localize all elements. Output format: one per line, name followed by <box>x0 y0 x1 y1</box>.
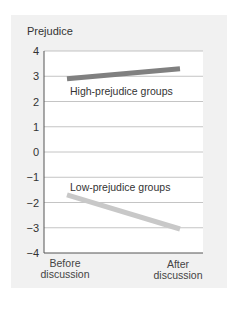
y-tick-label: 4 <box>33 45 39 57</box>
y-tick-label: −1 <box>26 171 39 183</box>
y-tick-label: 0 <box>33 146 39 158</box>
high-prejudice-label: High-prejudice groups <box>70 85 173 97</box>
y-tick-label: −3 <box>26 222 39 234</box>
x-tick-after-line2: discussion <box>143 270 213 281</box>
low-prejudice-label: Low-prejudice groups <box>70 181 170 193</box>
y-tick-label: 2 <box>33 96 39 108</box>
x-tick-after: After discussion <box>143 259 213 281</box>
x-tick-before-line2: discussion <box>30 269 100 280</box>
y-tick-label: 1 <box>33 121 39 133</box>
y-tick-label: −2 <box>26 197 39 209</box>
x-tick-before: Before discussion <box>30 258 100 280</box>
y-tick-label: 3 <box>33 70 39 82</box>
